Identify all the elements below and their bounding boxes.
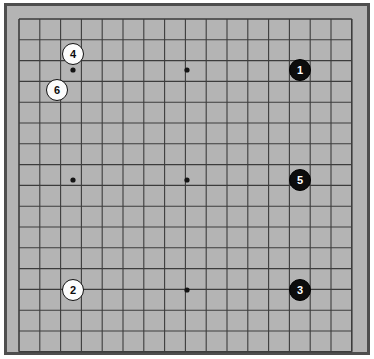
star-point-top-left — [70, 67, 75, 72]
star-point-mid-left — [70, 177, 75, 182]
stone-move-number: 4 — [70, 48, 76, 59]
star-point-center — [184, 177, 189, 182]
star-point-bottom-center — [184, 287, 189, 292]
star-point-group — [70, 67, 189, 292]
stone-move-number: 5 — [297, 174, 303, 185]
grid-lines — [0, 0, 374, 359]
stone-move-number: 1 — [297, 64, 303, 75]
go-board-figure: 123456 — [0, 0, 374, 359]
go-stone-black-move-5[interactable]: 5 — [289, 169, 311, 191]
stone-move-number: 3 — [297, 284, 303, 295]
stone-move-number: 2 — [70, 284, 76, 295]
stone-move-number: 6 — [54, 84, 60, 95]
go-stone-white-move-6[interactable]: 6 — [46, 79, 68, 101]
go-stone-black-move-1[interactable]: 1 — [289, 59, 311, 81]
board-surface[interactable]: 123456 — [0, 0, 374, 359]
go-stone-black-move-3[interactable]: 3 — [289, 279, 311, 301]
star-point-top-center — [184, 67, 189, 72]
go-stone-white-move-4[interactable]: 4 — [62, 43, 84, 65]
go-stone-white-move-2[interactable]: 2 — [62, 279, 84, 301]
